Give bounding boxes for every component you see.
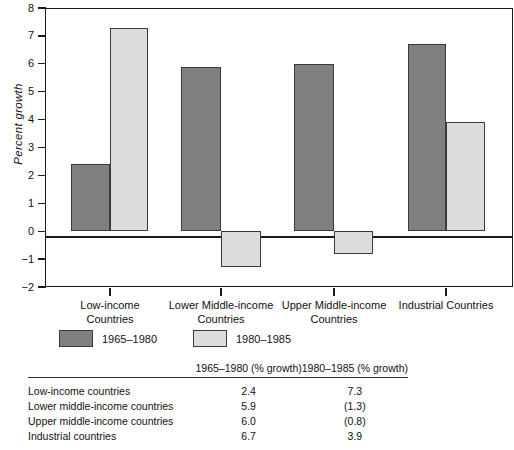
- y-axis-tick: [38, 231, 46, 232]
- y-axis-tick-label: 1: [0, 198, 34, 209]
- y-axis-tick-label: 8: [0, 3, 34, 14]
- y-axis-tick-label: −1: [0, 254, 34, 265]
- y-axis-tick-label: −2: [0, 282, 34, 293]
- y-axis-tick: [38, 258, 46, 259]
- legend-swatch-1: [193, 330, 227, 347]
- x-axis-category-label: Industrial Countries: [371, 299, 514, 313]
- x-axis-tick: [445, 288, 446, 296]
- table-cell-col1: 6.7: [196, 429, 302, 444]
- table-header-col2: 1980–1985 (% growth): [302, 362, 408, 378]
- y-axis-tick: [38, 203, 46, 204]
- bar-series1-3: [408, 44, 446, 231]
- zero-baseline: [45, 236, 513, 238]
- x-axis-tick: [333, 288, 334, 296]
- table-row: Industrial countries6.73.9: [28, 429, 408, 444]
- table-cell-col2: (1.3): [302, 399, 408, 414]
- data-table: 1965–1980 (% growth) 1980–1985 (% growth…: [28, 362, 408, 444]
- table-cell-col2: (0.8): [302, 414, 408, 429]
- y-axis-tick-label: 3: [0, 142, 34, 153]
- y-axis-tick: [38, 175, 46, 176]
- x-axis-tick: [109, 288, 110, 296]
- bar-series1-2: [294, 64, 334, 231]
- x-axis-category-label-line2: Countries: [259, 313, 409, 327]
- y-axis-tick: [38, 91, 46, 92]
- y-axis-tick: [38, 286, 46, 287]
- y-axis-tick-label: 2: [0, 170, 34, 181]
- bar-chart-figure: Percent growth 876543210−1−2 Low-incomeC…: [0, 0, 514, 450]
- table-cell-label: Lower middle-income countries: [28, 399, 196, 414]
- table-body: Low-income countries2.47.3Lower middle-i…: [28, 378, 408, 444]
- legend-swatch-0: [59, 330, 93, 347]
- bar-series1-0: [71, 164, 110, 231]
- table-cell-label: Upper middle-income countries: [28, 414, 196, 429]
- bar-series2-0: [110, 28, 148, 232]
- table-cell-label: Industrial countries: [28, 429, 196, 444]
- table-cell-col2: 3.9: [302, 429, 408, 444]
- table-cell-col1: 2.4: [196, 378, 302, 399]
- legend-label-1: 1980–1985: [236, 333, 291, 345]
- table-cell-col2: 7.3: [302, 378, 408, 399]
- table-cell-col1: 6.0: [196, 414, 302, 429]
- y-axis-tick-label: 5: [0, 86, 34, 97]
- y-axis-tick-label: 6: [0, 58, 34, 69]
- y-axis-tick-label: 7: [0, 30, 34, 41]
- table-header-row: 1965–1980 (% growth) 1980–1985 (% growth…: [28, 362, 408, 378]
- table-cell-label: Low-income countries: [28, 378, 196, 399]
- table-header-col1: 1965–1980 (% growth): [196, 362, 302, 378]
- table-cell-col1: 5.9: [196, 399, 302, 414]
- table-header-label: [28, 362, 196, 378]
- y-axis-tick: [38, 147, 46, 148]
- x-axis-tick: [220, 288, 221, 296]
- y-axis-tick: [38, 7, 46, 8]
- bar-series1-1: [181, 67, 221, 232]
- y-axis-tick: [38, 35, 46, 36]
- table-row: Upper middle-income countries6.0(0.8): [28, 414, 408, 429]
- bar-series2-3: [446, 122, 485, 231]
- legend-label-0: 1965–1980: [102, 333, 157, 345]
- y-axis-tick-label: 0: [0, 226, 34, 237]
- bar-series2-2: [334, 231, 373, 253]
- table-row: Lower middle-income countries5.9(1.3): [28, 399, 408, 414]
- table-row: Low-income countries2.47.3: [28, 378, 408, 399]
- y-axis-tick: [38, 63, 46, 64]
- legend-entry-0: 1965–1980: [59, 330, 157, 347]
- bar-series2-1: [221, 231, 261, 267]
- y-axis-tick-label: 4: [0, 114, 34, 125]
- y-axis-tick: [38, 119, 46, 120]
- chart-legend: 1965–19801980–1985: [45, 330, 465, 352]
- legend-entry-1: 1980–1985: [193, 330, 291, 347]
- x-axis-category-label-line1: Industrial Countries: [371, 299, 514, 313]
